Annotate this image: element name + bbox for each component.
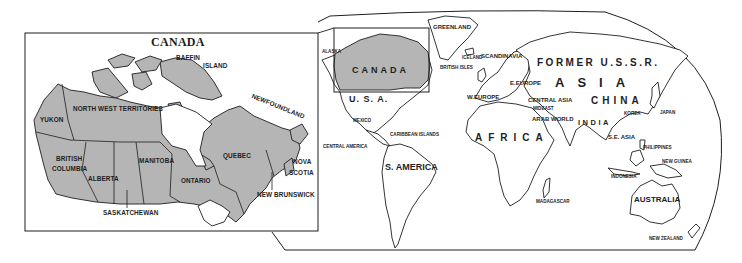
label-new-zealand: NEW ZEALAND <box>649 237 683 242</box>
label-caribbean: CARIBBEAN ISLANDS <box>390 133 439 138</box>
label-canada: CANADA <box>352 66 409 75</box>
label-manitoba: MANITOBA <box>139 158 174 164</box>
label-columbia: COLUMBIA <box>52 166 87 172</box>
new-guinea-shape <box>650 164 682 178</box>
label-saskatchewan: SASKATCHEWAN <box>103 210 158 216</box>
label-quebec: QUEBEC <box>223 153 251 159</box>
map-figure: CANADA BAFFIN ISLAND NEWFOUNDLAND YUKON … <box>0 0 742 263</box>
label-indonesia: INDONESIA <box>611 175 637 180</box>
label-baffin: BAFFIN <box>176 55 200 61</box>
label-yukon: YUKON <box>40 117 64 123</box>
label-scotia: SCOTIA <box>289 170 314 176</box>
label-japan: JAPAN <box>660 111 675 116</box>
label-central-asia: CENTRAL ASIA <box>528 97 572 103</box>
iceland-shape <box>465 48 474 55</box>
label-korea: KOREA <box>624 112 641 117</box>
label-w-europe: W.EUROPE <box>467 94 499 100</box>
label-alberta: ALBERTA <box>88 176 119 182</box>
central-america-shape <box>366 130 390 146</box>
label-usa: U. S. A. <box>349 95 388 104</box>
borneo-shape <box>630 150 644 166</box>
label-greenland: GREENLAND <box>433 24 471 30</box>
label-africa: AFRICA <box>475 133 549 143</box>
label-british: BRITISH <box>56 156 82 162</box>
label-ontario: ONTARIO <box>181 178 211 184</box>
label-island: ISLAND <box>203 63 227 69</box>
label-australia: AUSTRALIA <box>634 196 680 204</box>
new-zealand-shape <box>688 224 700 238</box>
label-alaska: ALASKA <box>322 50 341 55</box>
label-s-america: S. AMERICA <box>385 163 438 172</box>
south-america-shape <box>382 144 436 248</box>
label-india: INDIA <box>578 119 611 127</box>
label-new-guinea: NEW GUINEA <box>662 160 692 165</box>
label-madagascar: MADAGASCAR <box>536 200 570 205</box>
label-scandinavia: SCANDINAVIA <box>481 53 522 59</box>
canada-inset <box>25 33 318 231</box>
label-nwt: NORTH WEST TERRITORIES <box>73 106 163 112</box>
label-mideast: MIDEAST <box>533 107 554 112</box>
label-arab-world: ARAB WORLD <box>532 116 574 122</box>
map-graphics <box>0 0 742 263</box>
label-philippines: PHILIPPINES <box>643 146 672 151</box>
connector-line <box>318 28 334 33</box>
label-mexico: MEXICO <box>353 119 371 124</box>
madagascar-shape <box>543 178 550 198</box>
label-se-asia: S.E. ASIA <box>608 134 635 140</box>
label-china: CHINA <box>591 96 643 106</box>
british-isles-shape <box>478 68 486 82</box>
label-central-america: CENTRAL AMERICA <box>323 145 367 150</box>
label-former-ussr: FORMER U.S.S.R. <box>537 58 660 68</box>
label-british-isles: BRITISH ISLES <box>440 66 473 71</box>
label-e-europe: E.EUROPE <box>510 80 541 86</box>
inset-title: CANADA <box>151 36 205 48</box>
label-asia: ASIA <box>555 76 638 89</box>
label-iceland: ICELAND <box>462 56 482 61</box>
label-new-brunswick: NEW BRUNSWICK <box>257 192 315 198</box>
label-nova: NOVA <box>293 159 311 165</box>
world-canada-highlight <box>334 28 430 92</box>
